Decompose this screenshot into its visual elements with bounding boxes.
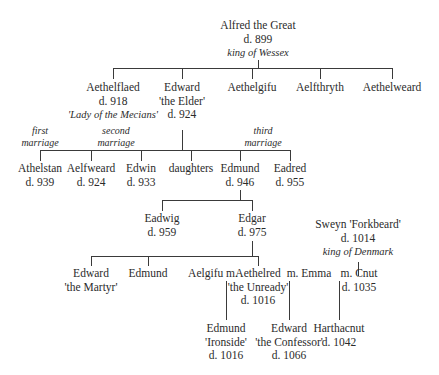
person-death: d. 946	[221, 176, 260, 190]
person-name: Edwin	[126, 162, 156, 176]
person-edmund-ironside: Edmund 'Ironside' d. 1016	[205, 322, 247, 363]
person-name: Eadwig	[144, 212, 179, 226]
person-name: Aethelflaed	[68, 81, 158, 95]
note-line: marriage	[244, 137, 281, 149]
person-aelfweard: Aelfweard d. 924	[67, 162, 116, 189]
person-death: d. 1035	[340, 281, 377, 295]
person-edward-the-elder: Edward 'the Elder' d. 924	[159, 81, 205, 122]
person-death: d. 959	[144, 226, 179, 240]
person-edwin: Edwin d. 933	[126, 162, 156, 189]
person-eadwig: Eadwig d. 959	[144, 212, 179, 239]
person-death: d. 924	[67, 176, 116, 190]
person-harthacnut: Harthacnut d. 1042	[313, 322, 364, 349]
note-line: first	[21, 125, 58, 137]
person-athelstan: Athelstan d. 939	[18, 162, 62, 189]
person-edmund-946: Edmund d. 946	[221, 162, 260, 189]
note-line: marriage	[21, 137, 58, 149]
person-aethelweard: Aethelweard	[363, 81, 422, 95]
person-epithet: 'the Unready'	[228, 281, 289, 295]
person-aethelgifu: Aethelgifu	[227, 81, 276, 95]
person-edward-the-martyr: Edward 'the Martyr'	[64, 267, 117, 294]
person-daughters: daughters	[169, 162, 214, 176]
person-name: Edgar	[238, 212, 267, 226]
person-aelfthryth: Aelfthryth	[296, 81, 344, 95]
person-name: Athelstan	[18, 162, 62, 176]
person-name: m. Cnut	[340, 267, 377, 281]
person-title: 'Lady of the Mecians'	[68, 108, 158, 122]
person-death: d. 1016	[228, 294, 289, 308]
person-eadred: Eadred d. 955	[274, 162, 307, 189]
person-edgar: Edgar d. 975	[238, 212, 267, 239]
person-emma-spouse: m. Emma	[287, 267, 332, 281]
person-name: Alfred the Great	[220, 19, 295, 33]
person-name: m. Emma	[287, 267, 332, 281]
note-second-marriage: second marriage	[97, 125, 134, 149]
person-name: Edmund	[221, 162, 260, 176]
person-name: Edward	[64, 267, 117, 281]
person-death: d. 924	[159, 108, 205, 122]
person-death: d. 1016	[205, 349, 247, 363]
person-epithet: 'the Martyr'	[64, 281, 117, 295]
person-aethelred-the-unready: Aethelred 'the Unready' d. 1016	[228, 267, 289, 308]
person-name: Harthacnut	[313, 322, 364, 336]
note-line: second	[97, 125, 134, 137]
note-first-marriage: first marriage	[21, 125, 58, 149]
note-line: third	[244, 125, 281, 137]
person-death: d. 933	[126, 176, 156, 190]
person-death: d. 1042	[313, 336, 364, 350]
person-death: d. 955	[274, 176, 307, 190]
person-name: Edward	[159, 81, 205, 95]
person-name: Aethelred	[228, 267, 289, 281]
person-name: Sweyn 'Forkbeard'	[315, 218, 401, 232]
person-death: d. 1014	[315, 232, 401, 246]
person-alfred-the-great: Alfred the Great d. 899 king of Wessex	[220, 19, 295, 60]
person-death: d. 939	[18, 176, 62, 190]
person-name: Edmund	[205, 322, 247, 336]
person-title: king of Wessex	[220, 46, 295, 60]
person-epithet: 'Ironside'	[205, 336, 247, 350]
person-death: d. 1066	[255, 349, 323, 363]
person-death: d. 975	[238, 226, 267, 240]
person-aethelflaed: Aethelflaed d. 918 'Lady of the Mecians'	[68, 81, 158, 122]
person-name: daughters	[169, 162, 214, 176]
person-edmund-son-of-edgar: Edmund	[129, 267, 168, 281]
person-name: Aethelweard	[363, 81, 422, 95]
person-name: Aethelgifu	[227, 81, 276, 95]
person-name: Edmund	[129, 267, 168, 281]
person-death: d. 918	[68, 95, 158, 109]
person-name: Aelfthryth	[296, 81, 344, 95]
person-sweyn-forkbeard: Sweyn 'Forkbeard' d. 1014 king of Denmar…	[315, 218, 401, 259]
person-name: Aelfweard	[67, 162, 116, 176]
person-title: king of Denmark	[315, 245, 401, 259]
person-epithet: 'the Elder'	[159, 95, 205, 109]
person-cnut: m. Cnut d. 1035	[340, 267, 377, 294]
person-death: d. 899	[220, 33, 295, 47]
person-name: Eadred	[274, 162, 307, 176]
note-line: marriage	[97, 137, 134, 149]
note-third-marriage: third marriage	[244, 125, 281, 149]
